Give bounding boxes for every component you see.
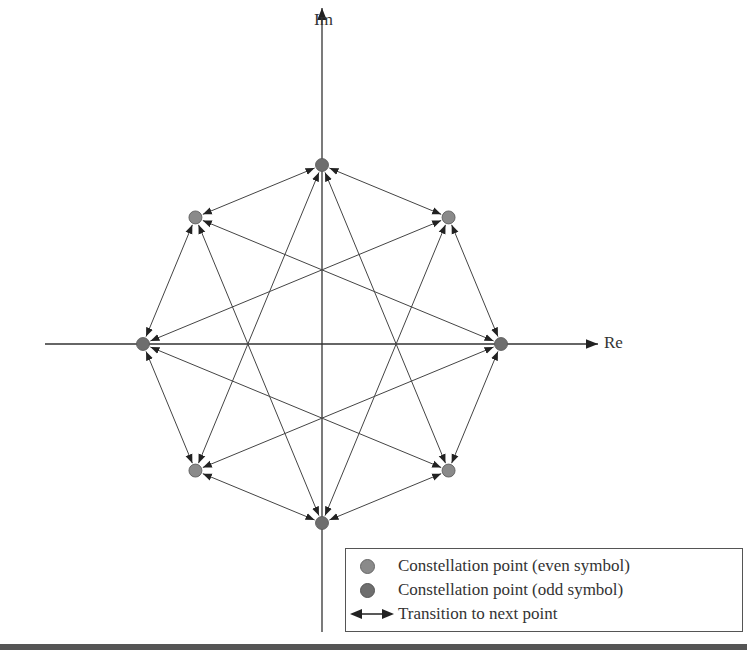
transition-arrow <box>146 351 192 463</box>
even-constellation-point <box>189 211 202 224</box>
even-constellation-point <box>442 464 455 477</box>
odd-constellation-point <box>316 159 329 172</box>
transition-arrow <box>198 225 318 516</box>
transition-arrow <box>203 474 315 520</box>
odd-point-icon <box>360 583 375 598</box>
odd-constellation-point <box>137 338 150 351</box>
transition-arrow <box>150 347 441 467</box>
transition-arrow <box>203 168 315 214</box>
transition-arrow <box>198 172 318 463</box>
axes <box>45 8 598 632</box>
legend: Constellation point (even symbol) Conste… <box>345 548 743 632</box>
transition-arrow <box>150 220 441 340</box>
even-constellation-point <box>189 464 202 477</box>
re-axis-label: Re <box>604 333 623 353</box>
double-arrow-icon <box>350 608 394 620</box>
transition-arrow <box>203 347 494 467</box>
legend-odd: Constellation point (odd symbol) <box>346 579 742 601</box>
odd-constellation-point <box>495 338 508 351</box>
transition-arrow <box>452 351 498 463</box>
legend-transition: Transition to next point <box>346 603 742 625</box>
transition-arrow <box>203 220 494 340</box>
odd-constellation-point <box>316 517 329 530</box>
transition-arrow <box>325 172 445 463</box>
even-constellation-point <box>442 211 455 224</box>
transition-arrow <box>452 225 498 337</box>
transition-arrow <box>325 225 445 516</box>
transition-arrow <box>329 168 441 214</box>
legend-even: Constellation point (even symbol) <box>346 555 742 577</box>
transition-arrow <box>329 474 441 520</box>
even-point-icon <box>360 559 375 574</box>
transition-arrow <box>146 225 192 337</box>
bottom-rule <box>0 644 747 650</box>
im-axis-label: Im <box>314 10 333 30</box>
